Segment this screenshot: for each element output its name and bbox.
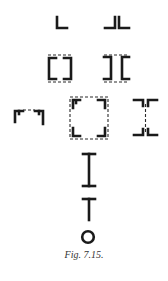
angle-double-icon [105,17,129,28]
figure-caption: Fig. 7.15. [0,249,168,260]
i-built-section-icon [104,55,129,82]
i-dashed-web-section-icon [134,100,157,135]
square-box-section-icon [70,97,108,139]
circular-section-icon [82,231,94,243]
figure-diagram [0,0,168,281]
i-beam-icon [83,154,95,186]
open-channel-section-icon [15,110,43,124]
box-bracket-section-icon [48,55,72,82]
angle-single-icon [57,17,67,28]
tee-section-icon [83,199,95,220]
